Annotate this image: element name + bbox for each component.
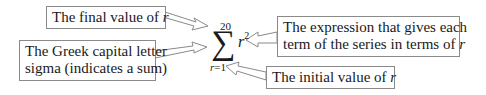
callout-expression-line2: term of the series in terms of r [283, 36, 454, 53]
callout-expression-var: r [459, 36, 465, 52]
callout-sigma-line2: sigma (indicates a sum) [25, 60, 150, 77]
callout-final-value-var: r [163, 9, 169, 25]
callout-sigma-line1: The Greek capital letter [25, 43, 150, 60]
term-exponent: 2 [244, 30, 249, 41]
callout-final-value: The final value of r [46, 6, 166, 29]
summation-formula: 20 ∑ r2 r=1 [207, 20, 267, 80]
lower-limit: r=1 [210, 61, 226, 73]
callout-sigma: The Greek capital letter sigma (indicate… [19, 40, 156, 81]
arrow-final-value [163, 12, 208, 30]
callout-expression-line2-text: term of the series in terms of [283, 36, 459, 52]
callout-expression-line1: The expression that gives each [283, 19, 454, 36]
callout-initial-value-text: The initial value of [272, 69, 390, 85]
callout-final-value-text: The final value of [52, 9, 163, 25]
lower-limit-value: =1 [214, 61, 226, 73]
callout-initial-value: The initial value of r [266, 66, 395, 89]
summand-term: r2 [238, 32, 249, 51]
callout-expression: The expression that gives each term of t… [277, 16, 460, 57]
sigma-symbol: ∑ [211, 25, 235, 61]
callout-initial-value-var: r [390, 69, 396, 85]
